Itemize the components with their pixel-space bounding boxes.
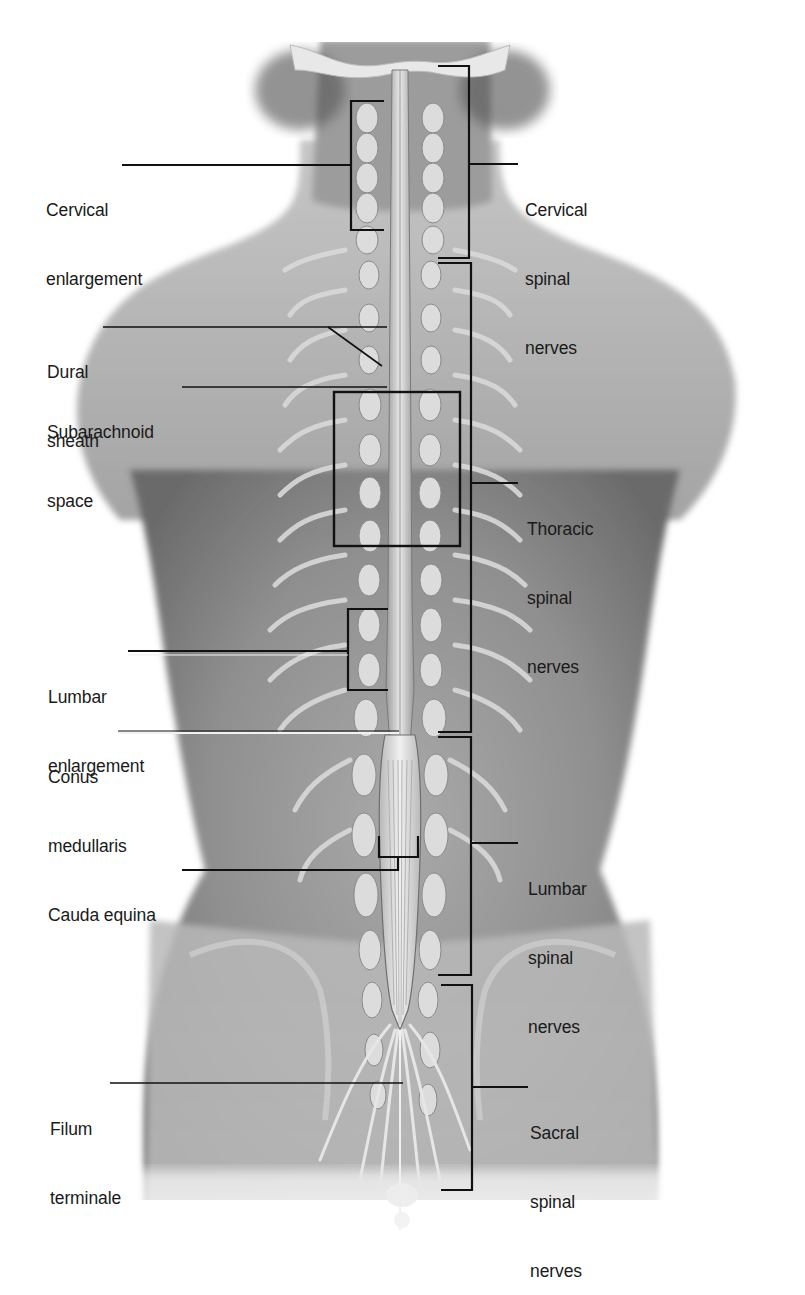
label-lumbar-spinal-nerves: Lumbar spinal nerves (528, 832, 587, 1062)
label-subarachnoid-space: Subarachnoid space (47, 375, 154, 536)
label-sacral-spinal-nerves: Sacral spinal nerves (530, 1076, 582, 1295)
label-cervical-spinal-nerves: Cervical spinal nerves (525, 153, 587, 383)
label-filum-terminale: Filum terminale (50, 1072, 121, 1233)
label-conus-medullaris: Conus medullaris (48, 720, 127, 881)
conus-medullaris-leader (118, 731, 399, 733)
label-cauda-equina: Cauda equina (48, 858, 156, 950)
label-cervical-enlargement: Cervical enlargement (46, 153, 142, 314)
label-thoracic-spinal-nerves: Thoracic spinal nerves (527, 472, 593, 702)
